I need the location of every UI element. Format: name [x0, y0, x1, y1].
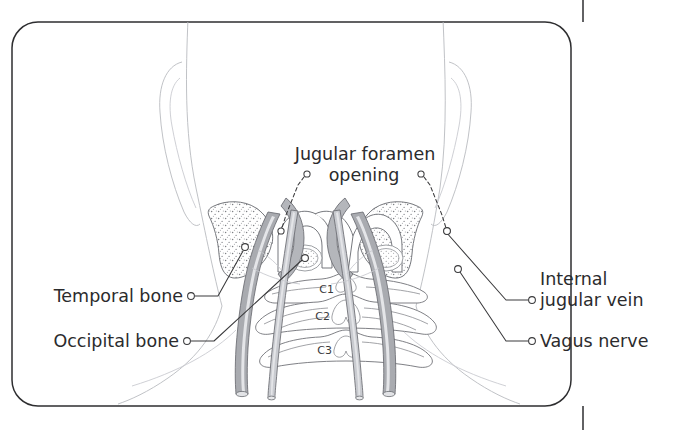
label-occipital-bone: Occipital bone: [53, 331, 179, 351]
leader-dot-jugular-foramen-left-label: [304, 171, 310, 177]
anatomy-illustration: C1 C2 C3 Jugular foramen opening: [0, 0, 691, 430]
leader-dot-temporal-bone-label: [188, 293, 195, 300]
leader-dot-occipital-bone-label: [184, 338, 191, 345]
left-ear-outer: [160, 62, 200, 226]
right-ear-outer: [431, 62, 471, 226]
label-internal-jugular-vein-line1: Internal: [540, 269, 607, 289]
vertebra-label-c1: C1: [319, 283, 334, 296]
neck-left-contour: [118, 306, 222, 404]
vagus-left-lumen-end: [268, 396, 276, 400]
ijv-right-lumen-end: [383, 391, 395, 396]
leader-dot-vagus-nerve-label: [529, 338, 536, 345]
leader-dot-jugular-foramen-right-label: [418, 171, 424, 177]
vertebra-label-c3: C3: [317, 344, 332, 357]
head-left-contour: [186, 18, 222, 306]
label-vagus-nerve: Vagus nerve: [540, 331, 648, 351]
label-internal-jugular-vein-line2: jugular vein: [539, 290, 644, 310]
leader-dot-vagus-nerve-target: [455, 266, 462, 273]
vertebra-label-c2: C2: [315, 310, 330, 323]
leader-dot-ijv-target: [444, 228, 451, 235]
leader-vagus-nerve: [460, 272, 528, 341]
vertebra-c3: [260, 330, 433, 367]
vagus-right-lumen-end: [356, 396, 364, 400]
ijv-left-lumen-end: [236, 391, 248, 396]
left-ear-inner: [170, 78, 196, 208]
leader-dot-occipital-bone-target: [302, 255, 309, 262]
leader-dot-jugular-foramen-left-target: [278, 228, 284, 234]
leader-dot-ijv-label: [529, 297, 536, 304]
anatomy-figure: C1 C2 C3 Jugular foramen opening: [0, 0, 691, 430]
label-jugular-foramen-line2: opening: [329, 165, 400, 185]
label-jugular-foramen-line1: Jugular foramen: [294, 144, 436, 164]
leader-dot-temporal-bone-target: [242, 244, 249, 251]
right-ear-inner: [435, 78, 461, 208]
label-temporal-bone: Temporal bone: [53, 286, 183, 306]
leader-jugular-foramen-right: [424, 177, 446, 228]
